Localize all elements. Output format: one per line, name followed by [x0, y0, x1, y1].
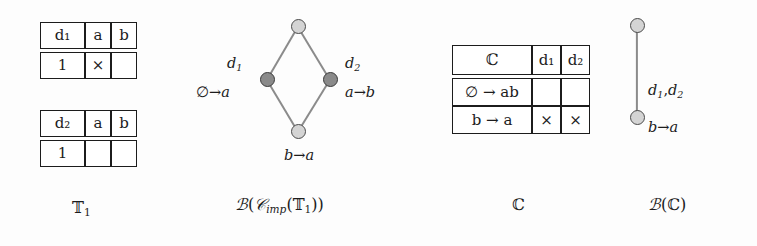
- caption-lattice-c: ℬ(ℂ): [648, 197, 686, 213]
- caption-lattice-c-text: ℬ(ℂ): [648, 195, 686, 214]
- caption-c-text: ℂ: [512, 195, 525, 214]
- lattice-c: d1,d2 b→a: [0, 0, 757, 180]
- lattice-c-edge-top-bottom: [636, 26, 638, 118]
- caption-lattice-imp: ℬ(𝒞imp(𝕋1)): [235, 197, 324, 213]
- caption-lattice-imp-text: ℬ(𝒞imp(𝕋1)): [235, 195, 324, 214]
- lattice-c-node-top[interactable]: [630, 18, 645, 33]
- caption-c: ℂ: [512, 197, 525, 213]
- lattice-c-node-bottom[interactable]: [630, 110, 645, 125]
- figure-root: d₁ a b 1 × d₂ a b: [0, 0, 757, 246]
- caption-t1: 𝕋1: [72, 200, 91, 216]
- lattice-c-label-edge-objects: d1,d2: [648, 83, 683, 98]
- lattice-c-label-bottom-implication: b→a: [648, 120, 678, 135]
- caption-t1-text: 𝕋1: [72, 198, 91, 217]
